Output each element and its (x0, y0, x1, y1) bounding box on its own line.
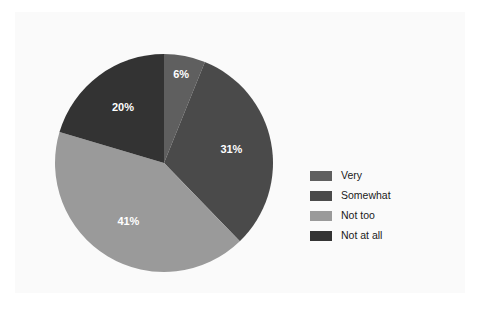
legend-item-label: Not at all (341, 230, 382, 241)
pie-slice-label: 41% (117, 215, 139, 227)
legend-item[interactable]: Somewhat (310, 186, 430, 205)
pie-slice-label: 6% (173, 68, 189, 80)
pie-svg: 6%31%41%20% (54, 53, 274, 273)
pie-slice-group (55, 54, 273, 272)
pie-chart: 6%31%41%20% VerySomewhatNot tooNot at al… (0, 0, 479, 314)
legend-item[interactable]: Very (310, 166, 430, 185)
legend-item-label: Very (341, 170, 362, 181)
legend-item[interactable]: Not too (310, 206, 430, 225)
legend-color-swatch (310, 191, 332, 201)
legend-color-swatch (310, 211, 332, 221)
legend-item-label: Somewhat (341, 190, 391, 201)
legend-color-swatch (310, 171, 332, 181)
legend-item[interactable]: Not at all (310, 226, 430, 245)
pie-slice-label: 20% (112, 101, 134, 113)
pie-graphic: 6%31%41%20% (54, 53, 274, 273)
legend-item-label: Not too (341, 210, 375, 221)
legend-color-swatch (310, 231, 332, 241)
chart-legend: VerySomewhatNot tooNot at all (310, 166, 430, 246)
pie-slice-label: 31% (220, 143, 242, 155)
